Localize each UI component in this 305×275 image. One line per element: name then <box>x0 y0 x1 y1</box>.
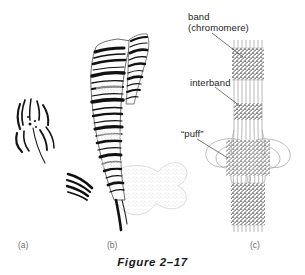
panel-letter-c: (c) <box>250 240 260 250</box>
figure-artwork <box>0 0 305 275</box>
figure-container: band (chromomere) interband “puff” (a) (… <box>0 0 305 275</box>
panel-letter-b: (b) <box>107 240 117 250</box>
band-middle <box>234 103 262 120</box>
panel-b-artwork <box>67 34 187 230</box>
label-band: band (chromomere) <box>188 11 249 33</box>
leader-line-interband <box>215 87 240 106</box>
panel-c-artwork <box>206 40 290 232</box>
label-interband: interband <box>190 77 231 88</box>
label-puff: “puff” <box>181 128 204 139</box>
band-top <box>232 48 264 80</box>
panel-a-artwork <box>16 99 54 163</box>
panel-letter-a: (a) <box>18 240 28 250</box>
figure-caption: Figure 2–17 <box>0 256 305 268</box>
leader-line-band <box>212 33 243 57</box>
band-bottom <box>231 183 265 225</box>
